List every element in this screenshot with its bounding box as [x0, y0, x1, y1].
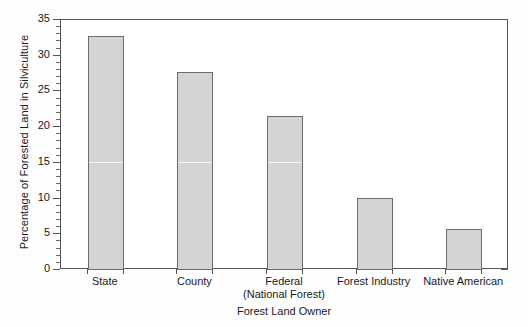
y-axis-major-tick — [53, 126, 60, 127]
y-axis-tick-label: 10 — [10, 192, 50, 203]
y-axis-major-tick — [53, 162, 60, 163]
y-axis-major-tick — [53, 198, 60, 199]
x-axis-category-label: Native American — [393, 275, 528, 288]
x-axis-tick — [176, 269, 177, 274]
x-axis-tick — [212, 269, 213, 274]
y-axis-major-tick — [53, 90, 60, 91]
bar-chart-figure: Percentage of Forested Land in Silvicult… — [0, 0, 528, 327]
bar — [267, 116, 303, 270]
y-axis-major-tick — [53, 55, 60, 56]
y-axis-major-tick — [53, 233, 60, 234]
y-axis-tick-label: 5 — [10, 227, 50, 238]
x-axis-tick — [356, 269, 357, 274]
x-axis-tick — [123, 269, 124, 274]
x-axis-category-label-line: Native American — [423, 275, 503, 287]
y-axis-major-tick — [501, 269, 508, 270]
x-axis-category-label-line: (National Forest) — [214, 288, 354, 301]
x-axis-tick — [392, 269, 393, 274]
y-axis-tick-label: 35 — [10, 13, 50, 24]
x-axis-tick — [445, 269, 446, 274]
y-axis-major-tick — [53, 269, 60, 270]
x-axis-category-label-line: State — [92, 275, 118, 287]
bar — [357, 198, 393, 270]
bar — [446, 229, 482, 270]
y-axis-tick-label: 0 — [10, 263, 50, 274]
x-axis-category-label-line: Federal — [265, 275, 302, 287]
x-axis-title: Forest Land Owner — [60, 305, 508, 318]
bar — [88, 36, 124, 270]
x-axis-tick — [87, 269, 88, 274]
plot-area — [60, 19, 508, 269]
x-axis-tick — [302, 269, 303, 274]
bar — [177, 72, 213, 270]
y-axis-major-tick — [53, 19, 60, 20]
y-axis-tick-label: 15 — [10, 156, 50, 167]
x-axis-tick — [266, 269, 267, 274]
y-axis-tick-label: 20 — [10, 120, 50, 131]
x-axis-category-label-line: County — [177, 275, 212, 287]
y-axis-tick-label: 30 — [10, 49, 50, 60]
x-axis-tick — [481, 269, 482, 274]
y-axis-tick-label: 25 — [10, 84, 50, 95]
